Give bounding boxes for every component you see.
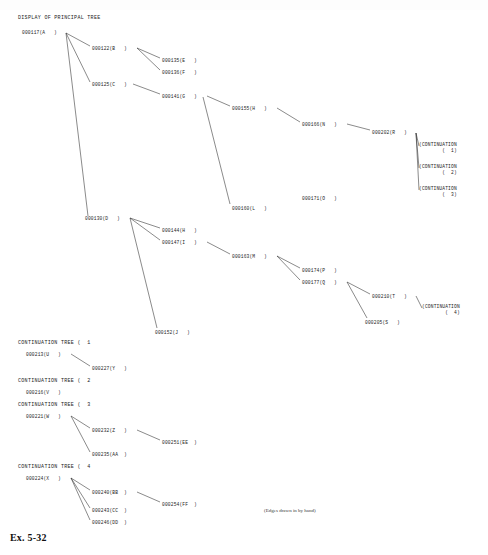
- continuation-tree-title: CONTINUATION TREE ( 3: [18, 402, 91, 408]
- tree-edge: [137, 48, 160, 58]
- tree-edge: [137, 430, 160, 440]
- tree-edge: [347, 124, 370, 130]
- continuation-marker-line2: ( 2): [419, 170, 457, 176]
- scan-artifact-band: [0, 0, 488, 10]
- tree-edge: [66, 33, 90, 46]
- tree-edge: [203, 97, 230, 204]
- tree-edge: [66, 33, 88, 216]
- tree-node: 000216(V ): [26, 390, 61, 396]
- tree-node: 000235(AA ): [92, 452, 127, 458]
- tree-node: 000254(FF ): [162, 502, 197, 508]
- tree-edge: [277, 108, 300, 122]
- tree-edge: [207, 96, 230, 106]
- tree-node: 000147(I ): [162, 240, 197, 246]
- tree-edge: [277, 256, 300, 280]
- tree-edge: [347, 282, 367, 318]
- tree-node: 000177(Q ): [302, 280, 337, 286]
- figure-label: Ex. 5-32: [10, 532, 47, 543]
- continuation-marker-line2: ( 4): [422, 310, 460, 316]
- tree-node: 000135(E ): [162, 58, 197, 64]
- tree-edge: [66, 33, 90, 82]
- tree-edge: [137, 492, 160, 502]
- tree-node: 000174(P ): [302, 268, 337, 274]
- figure-page: DISPLAY OF PRINCIPAL TREE 000117(A )0001…: [0, 0, 488, 555]
- continuation-marker: (CONTINUATION( 4): [422, 304, 460, 317]
- tree-node: 000144(H ): [162, 228, 197, 234]
- tree-node: 000246(DD ): [92, 520, 127, 526]
- continuation-marker: (CONTINUATION( 3): [419, 186, 457, 199]
- tree-node: 000136(F ): [162, 70, 197, 76]
- tree-node: 000155(H ): [232, 106, 267, 112]
- tree-node: 000210(T ): [372, 294, 407, 300]
- continuation-marker-line2: ( 3): [419, 192, 457, 198]
- tree-node: 000213(U ): [26, 352, 61, 358]
- tree-node: 000130(D ): [85, 216, 120, 222]
- tree-edge: [137, 48, 160, 70]
- principal-tree-title: DISPLAY OF PRINCIPAL TREE: [18, 15, 101, 21]
- tree-edge: [71, 478, 90, 520]
- tree-node: 000125(C ): [92, 82, 127, 88]
- tree-node: 000221(W ): [26, 414, 61, 420]
- tree-node: 000171(O ): [302, 196, 337, 202]
- tree-edges-overlay: [0, 0, 488, 555]
- tree-node: 000163(M ): [232, 254, 267, 260]
- tree-node: 000141(G ): [162, 94, 197, 100]
- tree-edge: [133, 84, 160, 94]
- hand-drawn-edges-note: (Edges drawn in by hand): [264, 508, 316, 513]
- tree-edge: [347, 282, 370, 294]
- continuation-tree-title: CONTINUATION TREE ( 4: [18, 464, 91, 470]
- tree-edge: [130, 218, 160, 228]
- tree-node: 000117(A ): [22, 30, 57, 36]
- tree-node: 000202(R ): [372, 130, 407, 136]
- tree-node: 000152(J ): [155, 330, 190, 336]
- tree-edge: [71, 478, 90, 490]
- tree-edge: [130, 218, 157, 328]
- continuation-marker: (CONTINUATION( 2): [419, 164, 457, 177]
- tree-node: 000251(EE ): [162, 440, 197, 446]
- continuation-tree-title: CONTINUATION TREE ( 2: [18, 378, 91, 384]
- tree-node: 000205(S ): [365, 320, 400, 326]
- continuation-marker-line2: ( 1): [419, 148, 457, 154]
- tree-node: 000243(CC ): [92, 508, 127, 514]
- tree-edge: [71, 354, 90, 366]
- tree-edge: [71, 416, 90, 428]
- tree-node: 000240(BB ): [92, 490, 127, 496]
- tree-node: 000166(N ): [302, 122, 337, 128]
- tree-edge: [207, 242, 230, 254]
- tree-edge: [130, 218, 160, 240]
- tree-edge: [71, 416, 90, 452]
- continuation-marker: (CONTINUATION( 1): [419, 142, 457, 155]
- tree-edge: [71, 478, 90, 508]
- tree-node: 000122(B ): [92, 46, 127, 52]
- tree-node: 000232(Z ): [92, 428, 127, 434]
- continuation-tree-title: CONTINUATION TREE ( 1: [18, 340, 91, 346]
- tree-node: 000224(X ): [26, 476, 61, 482]
- tree-edge: [277, 256, 300, 268]
- tree-node: 000160(L ): [232, 206, 267, 212]
- tree-node: 000227(Y ): [92, 366, 127, 372]
